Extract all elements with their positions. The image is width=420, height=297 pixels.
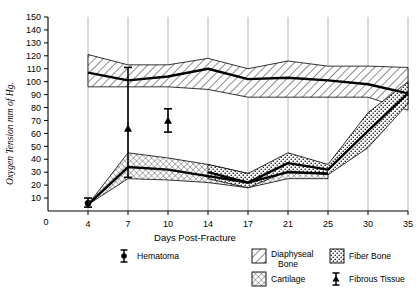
- legend-swatch-diagonal-hatch: [252, 249, 266, 263]
- y-tick-label: 20: [31, 180, 41, 190]
- y-tick-label: 70: [31, 116, 41, 126]
- legend-label-cont: Bone: [278, 259, 298, 269]
- y-tick-label: 140: [26, 25, 41, 35]
- x-tick-label: 4: [85, 219, 90, 229]
- y-tick-label: 50: [31, 142, 41, 152]
- y-tick-label-zero: 0: [43, 217, 48, 227]
- x-tick-label: 17: [243, 219, 253, 229]
- x-tick-label: 7: [125, 219, 130, 229]
- y-tick-label: 110: [27, 64, 41, 74]
- chart-figure: 1020304050607080901001101201301401500 47…: [0, 0, 420, 297]
- x-tick-label: 30: [363, 219, 373, 229]
- legend-swatch-cross-hatch: [252, 272, 266, 286]
- legend-label: Hematoma: [137, 251, 179, 261]
- y-tick-label: 80: [31, 103, 41, 113]
- legend-label: Diaphyseal: [271, 249, 314, 259]
- legend-item-fiber-bone: Fiber Bone: [330, 249, 391, 263]
- x-tick-label: 35: [403, 219, 413, 229]
- y-tick-label: 130: [26, 38, 41, 48]
- legend-label: Fibrous Tissue: [349, 274, 405, 284]
- x-axis-title: Days Post-Fracture: [154, 232, 236, 243]
- y-tick-label: 60: [31, 129, 41, 139]
- legend-label: Fiber Bone: [349, 251, 391, 261]
- y-tick-label: 100: [26, 77, 41, 87]
- y-tick-label: 150: [26, 12, 41, 22]
- legend-item-cartilage: Cartilage: [252, 272, 306, 286]
- legend-swatch-dotted: [330, 249, 344, 263]
- y-tick-label: 10: [31, 193, 41, 203]
- x-tick-label: 25: [323, 219, 333, 229]
- x-tick-label: 21: [283, 219, 293, 229]
- y-tick-label: 90: [31, 90, 41, 100]
- y-tick-label: 30: [31, 167, 41, 177]
- x-tick-label: 14: [203, 219, 213, 229]
- x-tick-label: 10: [163, 219, 173, 229]
- y-tick-label: 120: [26, 51, 41, 61]
- legend-label: Cartilage: [271, 274, 306, 284]
- y-tick-label: 40: [31, 154, 41, 164]
- oxygen-tension-chart: 1020304050607080901001101201301401500 47…: [0, 0, 420, 297]
- y-axis-title: Oxygen Tension mm of Hg.: [5, 82, 15, 185]
